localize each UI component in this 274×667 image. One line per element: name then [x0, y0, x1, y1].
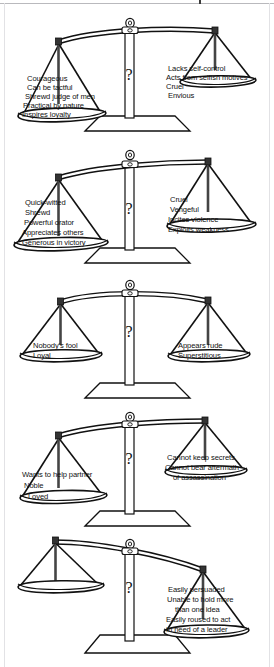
trait-label: Can be tactful: [27, 83, 72, 92]
trait-label: Easily roused to act: [166, 615, 230, 624]
balance-scale-3: ? Nobody's fool Loyal Appears rude Super…: [0, 275, 274, 410]
balance-scale-4: ? Wants to help partner Noble Loved Cann…: [0, 408, 274, 543]
svg-text:?: ?: [125, 66, 132, 83]
svg-text:?: ?: [125, 323, 132, 340]
trait-label: Cruel: [170, 195, 188, 204]
trait-label: Loyal: [33, 351, 51, 360]
svg-text:?: ?: [125, 579, 132, 596]
trait-label: Exploits weakness: [168, 225, 229, 234]
trait-label: Shrewd: [25, 208, 50, 217]
svg-text:?: ?: [125, 200, 132, 217]
trait-label: Inspires loyalty: [22, 110, 71, 119]
trait-label: Lacks self-control: [168, 64, 225, 73]
trait-label: Cannot bear aftermath: [165, 463, 239, 472]
trait-label: Noble: [24, 481, 43, 490]
page-top-rule: [0, 3, 274, 4]
trait-label: Cruel: [166, 82, 184, 91]
page-top-tick-mark: [199, 0, 201, 4]
trait-label: Generous in victory: [22, 238, 86, 247]
trait-label: Nobody's fool: [33, 341, 77, 350]
balance-scale-2: ? Quick-witted Shrewd Powerful orator Ap…: [0, 140, 274, 275]
trait-label: Appreciates others: [22, 228, 84, 237]
trait-label: Unable to hold more: [167, 595, 234, 604]
trait-label: Powerful orator: [24, 218, 74, 227]
trait-label: Incites violence: [168, 215, 218, 224]
trait-label: Vengeful: [170, 205, 199, 214]
trait-label: Envious: [168, 91, 194, 100]
trait-label: Courageous: [27, 74, 67, 83]
trait-label: In need of a leader: [166, 625, 227, 634]
trait-label: Easily persuaded: [168, 585, 225, 594]
balance-scale-1: ? Courageous Can be tactful Shrewd judge…: [0, 8, 274, 143]
balance-scale-5: ? Easily persuaded Unable to hold more t…: [0, 535, 274, 667]
trait-label: Superstitious: [178, 351, 221, 360]
trait-label: Practical by nature: [23, 101, 84, 110]
trait-label: Cannot keep secrets: [167, 453, 235, 462]
trait-label: Acts from selfish motives: [166, 73, 247, 82]
trait-label: Loved: [28, 492, 48, 501]
trait-label: Quick-witted: [25, 198, 66, 207]
diagram-page: ? Courageous Can be tactful Shrewd judge…: [0, 0, 274, 667]
trait-label: Wants to help partner: [22, 470, 92, 479]
trait-label: Appears rude: [178, 341, 222, 350]
trait-label: Shrewd judge of men: [25, 92, 95, 101]
trait-label: than one idea: [175, 605, 220, 614]
svg-text:?: ?: [125, 450, 132, 467]
trait-label: of assassination: [173, 473, 226, 482]
